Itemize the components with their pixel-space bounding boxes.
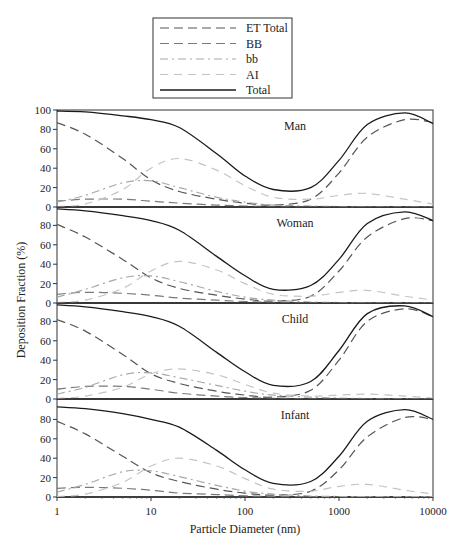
- series-ai: [57, 369, 433, 399]
- y-tick-label: 100: [35, 104, 52, 116]
- y-tick-label: 60: [40, 433, 52, 445]
- x-tick-label: 100: [237, 505, 254, 517]
- series-bb: [57, 487, 433, 496]
- y-tick-label: 20: [40, 278, 52, 290]
- panel-infant: 020406080Infant: [40, 399, 433, 503]
- series-et-total: [57, 417, 433, 496]
- y-tick-label: 60: [40, 143, 52, 155]
- legend: ET TotalBBbbAITotal: [153, 18, 292, 98]
- x-tick-label: 10: [146, 505, 158, 517]
- y-tick-label: 60: [40, 335, 52, 347]
- y-tick-label: 80: [40, 315, 52, 327]
- y-tick-label: 80: [40, 123, 52, 135]
- y-tick-label: 0: [46, 297, 52, 309]
- panel-label: Child: [282, 312, 309, 326]
- y-tick-label: 80: [40, 219, 52, 231]
- series-et-total: [57, 218, 433, 301]
- y-axis-label: Deposition Fraction (%): [14, 242, 28, 359]
- series-total: [57, 305, 433, 387]
- series-bb: [57, 276, 433, 303]
- series-et-total: [57, 309, 433, 398]
- legend-label: ET Total: [246, 21, 288, 35]
- series-ai: [57, 261, 433, 302]
- chart-panels: 020406080100Man020406080Woman020406080Ch…: [35, 104, 434, 503]
- legend-label: BB: [246, 37, 262, 51]
- y-tick-label: 40: [40, 162, 52, 174]
- x-tick-label: 1000: [328, 505, 351, 517]
- x-axis-label: Particle Diameter (nm): [190, 522, 301, 536]
- series-total: [57, 209, 433, 290]
- y-tick-label: 20: [40, 182, 52, 194]
- y-tick-label: 80: [40, 413, 52, 425]
- x-tick-label: 1: [54, 505, 60, 517]
- y-tick-label: 20: [40, 374, 52, 386]
- y-tick-label: 40: [40, 354, 52, 366]
- legend-label: AI: [246, 68, 259, 82]
- legend-label: Total: [246, 83, 271, 97]
- x-tick-label: 10000: [419, 505, 447, 517]
- panel-frame: [57, 207, 433, 303]
- series-bb: [57, 386, 433, 398]
- y-tick-label: 60: [40, 239, 52, 251]
- panel-frame: [57, 303, 433, 399]
- panel-frame: [57, 110, 433, 207]
- y-tick-label: 20: [40, 472, 52, 484]
- y-tick-label: 0: [46, 393, 52, 405]
- panel-label: Infant: [281, 408, 310, 422]
- y-tick-label: 40: [40, 258, 52, 270]
- panel-frame: [57, 399, 433, 497]
- deposition-fraction-chart: ET TotalBBbbAITotal 020406080100Man02040…: [0, 0, 457, 547]
- panel-woman: 020406080Woman: [40, 207, 433, 309]
- legend-label: bb: [246, 52, 258, 66]
- y-tick-label: 40: [40, 452, 52, 464]
- series-total: [57, 111, 433, 191]
- y-tick-label: 0: [46, 201, 52, 213]
- series-et-total: [57, 119, 433, 205]
- panel-man: 020406080100Man: [35, 104, 434, 213]
- x-axis: 110100100010000: [54, 497, 447, 517]
- y-tick-label: 0: [46, 491, 52, 503]
- panel-label: Man: [284, 119, 306, 133]
- panel-child: 020406080Child: [40, 303, 433, 405]
- panel-label: Woman: [276, 216, 313, 230]
- series-total: [57, 407, 433, 485]
